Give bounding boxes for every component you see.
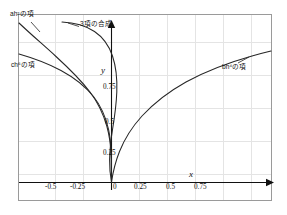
y-tick-label-0.25: 0.25: [103, 150, 116, 157]
x-tick-label-neg0.5: -0.5: [45, 184, 56, 191]
x-tick-label-0.25: 0.25: [134, 184, 147, 191]
annotation-composite: 3項の合成: [80, 21, 112, 28]
annotation-ch6-term: ch⁶の項: [11, 62, 35, 69]
x-tick-label-0.75: 0.75: [194, 184, 207, 191]
y-axis-label: y: [101, 66, 105, 75]
x-axis-arrow: [266, 179, 274, 186]
y-tick-label-0.75: 0.75: [103, 84, 116, 91]
x-axis-label: x: [189, 170, 193, 179]
leader-ah2: [31, 22, 40, 32]
curve-bh4: [112, 51, 272, 182]
x-tick-label-0.5: 0.5: [166, 184, 175, 191]
y-tick-label-0.5: 0.5: [105, 119, 114, 126]
figure-canvas: ah²の項 ch⁶の項 bh⁴の項 3項の合成 y x -0.5 -0.25 0…: [0, 0, 287, 215]
curve-composite: [62, 22, 117, 182]
x-tick-label-0: 0: [113, 184, 117, 191]
annotation-bh4-term: bh⁴の項: [222, 64, 246, 71]
x-tick-label-neg0.25: -0.25: [70, 184, 85, 191]
annotation-ah2-term: ah²の項: [10, 11, 34, 18]
curve-ch6: [19, 54, 112, 182]
